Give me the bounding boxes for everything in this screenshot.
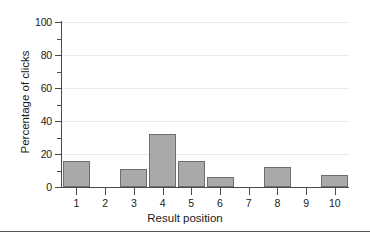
bar-4 — [149, 134, 176, 187]
plot-area — [62, 22, 349, 187]
bar-5 — [178, 161, 205, 187]
y-tick-40 — [55, 121, 61, 122]
y-tick-100 — [55, 22, 61, 23]
x-tick-label-6: 6 — [207, 197, 233, 209]
y-tick-20 — [55, 154, 61, 155]
bar-1 — [63, 161, 90, 187]
x-tick-label-8: 8 — [264, 197, 290, 209]
x-tick-10 — [335, 188, 336, 195]
x-tick-6 — [220, 188, 221, 195]
y-tick-label-0: 0 — [46, 181, 52, 193]
x-tick-7 — [249, 188, 250, 195]
y-tick-label-20: 20 — [41, 148, 52, 160]
x-tick-1 — [76, 188, 77, 195]
x-tick-8 — [277, 188, 278, 195]
x-tick-label-10: 10 — [322, 197, 348, 209]
y-tick-label-100: 100 — [35, 16, 52, 28]
gridline-40 — [62, 121, 349, 122]
y-tick-80 — [55, 55, 61, 56]
y-tick-minor-30 — [57, 138, 61, 139]
y-tick-minor-70 — [57, 72, 61, 73]
bar-3 — [120, 169, 147, 187]
y-tick-minor-90 — [57, 39, 61, 40]
y-tick-60 — [55, 88, 61, 89]
bar-10 — [321, 175, 348, 187]
y-tick-label-40: 40 — [41, 115, 52, 127]
x-tick-9 — [306, 188, 307, 195]
bar-8 — [264, 167, 291, 187]
x-tick-label-2: 2 — [92, 197, 118, 209]
x-tick-label-5: 5 — [178, 197, 204, 209]
y-axis-title: Percentage of clicks — [19, 22, 31, 182]
y-tick-label-80: 80 — [41, 49, 52, 61]
x-tick-label-3: 3 — [121, 197, 147, 209]
x-axis-title: Result position — [0, 212, 370, 224]
bar-6 — [207, 177, 234, 187]
x-tick-3 — [134, 188, 135, 195]
x-tick-label-4: 4 — [150, 197, 176, 209]
chart-figure: 100 80 60 40 20 0 1 2 3 4 5 6 7 8 9 10 R… — [0, 0, 370, 246]
x-tick-5 — [191, 188, 192, 195]
y-tick-0 — [55, 187, 61, 188]
gridline-80 — [62, 55, 349, 56]
x-tick-label-7: 7 — [236, 197, 262, 209]
gridline-60 — [62, 88, 349, 89]
x-tick-label-9: 9 — [293, 197, 319, 209]
gridline-100 — [62, 22, 349, 23]
bottom-rule — [0, 231, 370, 232]
y-axis-line — [61, 21, 62, 188]
y-tick-minor-50 — [57, 105, 61, 106]
x-tick-label-1: 1 — [63, 197, 89, 209]
x-tick-4 — [163, 188, 164, 195]
gridline-20 — [62, 154, 349, 155]
y-tick-minor-10 — [57, 171, 61, 172]
y-tick-label-60: 60 — [41, 82, 52, 94]
x-tick-2 — [105, 188, 106, 195]
